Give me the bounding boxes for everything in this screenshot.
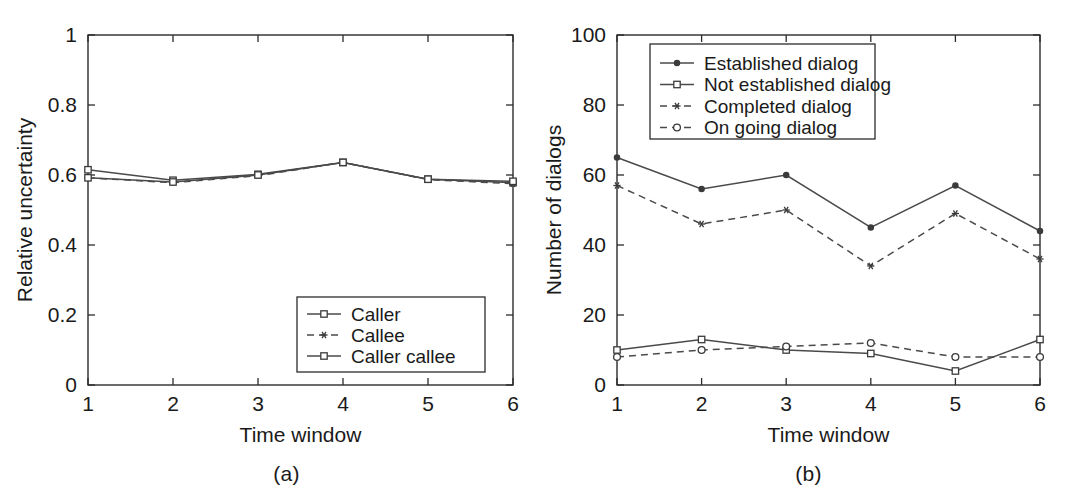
data-point (510, 178, 516, 184)
x-tick-label: 3 (780, 392, 792, 415)
series-line-0 (617, 158, 1040, 232)
data-point (425, 176, 431, 182)
panel-a-caption: (a) (0, 462, 533, 486)
x-tick-label: 4 (337, 392, 349, 415)
series-markers-1 (84, 159, 516, 186)
y-tick-label: 60 (583, 163, 606, 186)
data-point (170, 179, 176, 185)
series-markers-2 (613, 182, 1043, 269)
series-line-3 (617, 343, 1040, 357)
y-tick-label: 0.4 (48, 233, 78, 256)
data-point (1037, 354, 1044, 361)
legend-label-3: On going dialog (704, 117, 837, 138)
chart-panel-a: 00.20.40.60.81123456Time windowRelative … (0, 0, 533, 490)
data-point (614, 347, 620, 353)
series-line-2 (88, 162, 513, 182)
data-point (340, 159, 346, 165)
x-axis-title: Time window (768, 423, 891, 446)
y-tick-label: 0 (65, 373, 77, 396)
y-tick-label: 0 (594, 373, 606, 396)
y-tick-label: 20 (583, 303, 606, 326)
x-tick-label: 6 (507, 392, 519, 415)
y-tick-label: 40 (583, 233, 606, 256)
legend-label-0: Caller (351, 304, 401, 325)
y-tick-label: 100 (571, 23, 606, 46)
chart-b-svg: 020406080100123456Time windowNumber of d… (533, 0, 1065, 470)
data-point (255, 172, 261, 178)
data-point (783, 343, 790, 350)
data-point (85, 175, 91, 181)
data-point (698, 347, 705, 354)
series-markers-0 (614, 155, 1042, 234)
x-tick-label: 2 (696, 392, 708, 415)
x-tick-label: 1 (82, 392, 94, 415)
x-tick-label: 6 (1034, 392, 1046, 415)
chart-a-svg: 00.20.40.60.81123456Time windowRelative … (0, 0, 533, 470)
legend: Established dialogNot established dialog… (650, 44, 891, 139)
legend-label-2: Caller callee (351, 346, 456, 367)
data-point (1037, 228, 1042, 233)
x-tick-label: 1 (611, 392, 623, 415)
data-point (699, 186, 704, 191)
figure-container: 00.20.40.60.81123456Time windowRelative … (0, 0, 1065, 490)
legend-label-0: Established dialog (704, 53, 858, 74)
y-tick-label: 0.6 (48, 163, 77, 186)
data-point (614, 155, 619, 160)
y-tick-label: 80 (583, 93, 606, 116)
data-point (698, 336, 704, 342)
panel-b-caption: (b) (533, 462, 1065, 486)
x-tick-label: 2 (167, 392, 179, 415)
legend-label-1: Callee (351, 325, 405, 346)
legend-label-2: Completed dialog (704, 96, 852, 117)
data-point (1037, 336, 1043, 342)
legend-swatch-marker-2 (321, 353, 327, 359)
data-point (614, 354, 621, 361)
data-point (952, 368, 958, 374)
data-point (953, 183, 958, 188)
data-point (868, 350, 874, 356)
x-tick-label: 5 (422, 392, 434, 415)
x-tick-label: 4 (865, 392, 877, 415)
data-point (698, 221, 705, 227)
legend-swatch-marker-1 (674, 81, 680, 87)
series-line-1 (617, 340, 1040, 372)
data-point (952, 354, 959, 361)
legend-label-1: Not established dialog (704, 74, 891, 95)
legend: CallerCalleeCaller callee (297, 297, 485, 372)
x-tick-label: 3 (252, 392, 264, 415)
data-point (867, 340, 874, 347)
legend-swatch-marker-0 (674, 60, 679, 65)
y-tick-label: 0.2 (48, 303, 77, 326)
chart-panel-b: 020406080100123456Time windowNumber of d… (533, 0, 1065, 490)
y-axis-title: Relative uncertainty (13, 117, 36, 302)
x-tick-label: 5 (950, 392, 962, 415)
y-tick-label: 1 (65, 23, 77, 46)
legend-swatch-marker-3 (674, 124, 681, 131)
data-point (868, 225, 873, 230)
y-tick-label: 0.8 (48, 93, 77, 116)
legend-swatch-marker-0 (321, 311, 327, 317)
y-axis-title: Number of dialogs (542, 125, 565, 295)
x-axis-title: Time window (240, 423, 363, 446)
data-point (784, 172, 789, 177)
data-point (85, 167, 91, 173)
